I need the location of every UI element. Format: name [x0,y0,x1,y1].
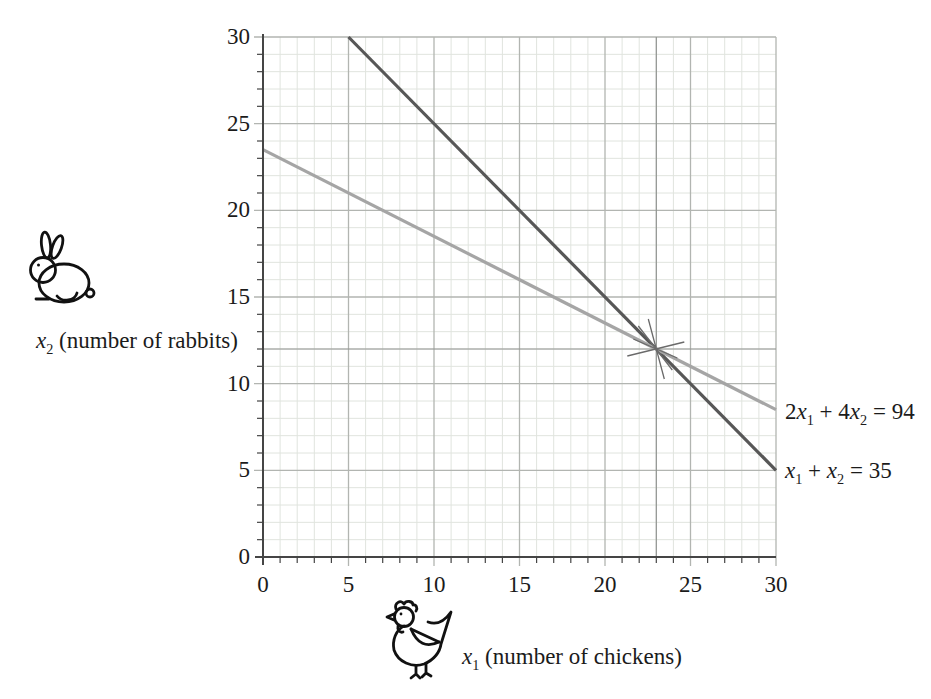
x-tick-label: 0 [233,571,293,599]
equation-label-light-line: 2x1 + 4x2 = 94 [785,398,915,426]
x-tick-label: 30 [746,571,806,599]
y-tick-label: 15 [190,283,250,311]
equation-label-dark-line: x1 + x2 = 35 [785,457,892,485]
y-tick-label: 25 [190,110,250,138]
y-tick-label: 5 [190,456,250,484]
figure-canvas: x2 (number of rabbits) x1 (number of chi… [0,0,931,699]
ticks-layer [257,54,759,563]
x-axis-title: x1 (number of chickens) [462,643,682,671]
x-tick-label: 10 [404,571,464,599]
x-tick-label: 15 [490,571,550,599]
grid-major-layer [254,37,776,566]
y-tick-label: 20 [190,196,250,224]
x-tick-label: 5 [319,571,379,599]
y-tick-label: 10 [190,370,250,398]
chicken-icon [387,601,451,678]
y-axis-title: x2 (number of rabbits) [36,327,238,355]
axes-layer [255,34,776,565]
y-tick-label: 30 [190,23,250,51]
x-tick-label: 25 [661,571,721,599]
y-tick-label: 0 [190,543,250,571]
x-tick-label: 20 [575,571,635,599]
rabbit-icon [31,232,95,302]
